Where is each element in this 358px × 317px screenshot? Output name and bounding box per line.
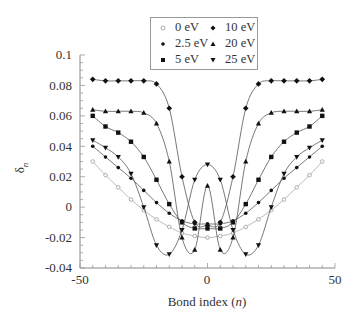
small-circle-marker — [167, 211, 171, 215]
diamond-marker — [307, 78, 313, 84]
x-tick-label: 50 — [329, 272, 342, 287]
square-marker — [218, 226, 222, 230]
x-axis-title: Bond index (n) — [168, 294, 247, 309]
open-circle-marker — [282, 198, 286, 202]
small-circle-icon — [157, 38, 169, 50]
small-circle-marker — [308, 155, 312, 159]
open-circle-marker — [206, 236, 210, 240]
series-20-ev — [90, 107, 325, 254]
square-marker — [282, 140, 286, 144]
square-marker — [167, 202, 171, 206]
diamond-marker — [230, 174, 236, 180]
series-10-ev — [90, 77, 325, 229]
triangle-up-marker — [154, 121, 159, 126]
diamond-marker — [319, 77, 325, 83]
legend-item-10ev: 10 eV — [207, 20, 255, 35]
diamond-marker — [128, 78, 134, 84]
series-line — [93, 79, 323, 227]
square-marker — [295, 130, 299, 134]
x-tick-label: 0 — [204, 272, 211, 287]
diamond-marker — [115, 78, 121, 84]
triangle-up-marker — [90, 107, 95, 112]
triangle-down-marker — [320, 138, 325, 143]
series-line — [93, 110, 323, 254]
small-circle-marker — [116, 166, 120, 170]
small-circle-marker — [320, 144, 324, 148]
diamond-marker — [166, 105, 172, 111]
open-circle-marker — [129, 198, 133, 202]
open-circle-marker — [91, 160, 95, 164]
triangle-down-marker — [192, 178, 197, 183]
square-marker — [193, 226, 197, 230]
open-circle-marker — [193, 234, 197, 238]
triangle-up-marker — [243, 159, 248, 164]
diamond-marker — [281, 78, 287, 84]
y-tick-label: 0.02 — [49, 169, 72, 184]
open-circle-marker — [218, 234, 222, 238]
y-tick-label: -0.02 — [45, 230, 72, 245]
series-line — [93, 116, 323, 229]
square-marker — [256, 178, 260, 182]
open-circle-marker — [167, 225, 171, 229]
y-tick-label: 0.1 — [56, 47, 72, 62]
triangle-up-marker — [218, 247, 223, 252]
legend-item-25ev: 25 eV — [207, 52, 255, 67]
diamond-marker — [103, 78, 109, 84]
triangle-down-marker — [307, 146, 312, 151]
small-circle-marker — [91, 144, 95, 148]
square-marker — [103, 124, 107, 128]
square-marker — [244, 202, 248, 206]
triangle-up-marker — [205, 183, 210, 188]
square-marker — [116, 130, 120, 134]
open-circle-marker — [244, 225, 248, 229]
legend-item-0ev: 0 eV — [157, 20, 199, 35]
y-tick-label: 0 — [66, 199, 73, 214]
series-group — [90, 77, 325, 258]
series-5-ev — [91, 114, 325, 231]
diamond-marker — [179, 174, 185, 180]
diamond-marker — [243, 105, 249, 111]
triangle-down-marker — [128, 172, 133, 177]
square-marker — [154, 178, 158, 182]
square-marker — [142, 155, 146, 159]
legend-item-5ev: 5 eV — [157, 52, 199, 67]
diamond-marker — [268, 78, 274, 84]
open-circle-marker — [308, 173, 312, 177]
small-circle-marker — [142, 189, 146, 193]
open-circle-marker — [320, 160, 324, 164]
triangle-down-marker — [103, 146, 108, 151]
triangle-down-marker — [218, 178, 223, 183]
diamond-marker — [141, 78, 147, 84]
square-marker — [91, 114, 95, 118]
legend: 0 eV 2.5 eV 5 eV 10 eV 20 eV 25 eV — [150, 17, 258, 70]
triangle-up-icon — [207, 38, 219, 50]
legend-item-20ev: 20 eV — [207, 36, 255, 51]
x-tick-label: -50 — [71, 272, 88, 287]
square-marker — [129, 140, 133, 144]
small-circle-marker — [244, 211, 248, 215]
triangle-down-marker — [154, 243, 159, 248]
square-marker — [320, 114, 324, 118]
open-circle-marker — [104, 173, 108, 177]
small-circle-marker — [295, 166, 299, 170]
small-circle-marker — [104, 155, 108, 159]
triangle-up-marker — [192, 247, 197, 252]
diamond-icon — [207, 22, 219, 34]
legend-item-2-5ev: 2.5 eV — [157, 36, 208, 51]
open-circle-marker — [257, 218, 261, 222]
triangle-down-icon — [207, 54, 219, 66]
y-tick-label: 0.08 — [49, 78, 72, 93]
diamond-marker — [294, 78, 300, 84]
triangle-down-marker — [90, 138, 95, 143]
open-circle-icon — [157, 22, 169, 34]
y-axis-title: δn — [12, 162, 30, 173]
triangle-up-marker — [320, 107, 325, 112]
small-circle-marker — [269, 189, 273, 193]
triangle-up-marker — [256, 121, 261, 126]
open-circle-marker — [116, 186, 120, 190]
open-circle-marker — [155, 218, 159, 222]
diamond-marker — [90, 77, 96, 83]
square-icon — [157, 54, 169, 66]
y-tick-label: -0.04 — [45, 260, 73, 275]
triangle-up-marker — [167, 159, 172, 164]
